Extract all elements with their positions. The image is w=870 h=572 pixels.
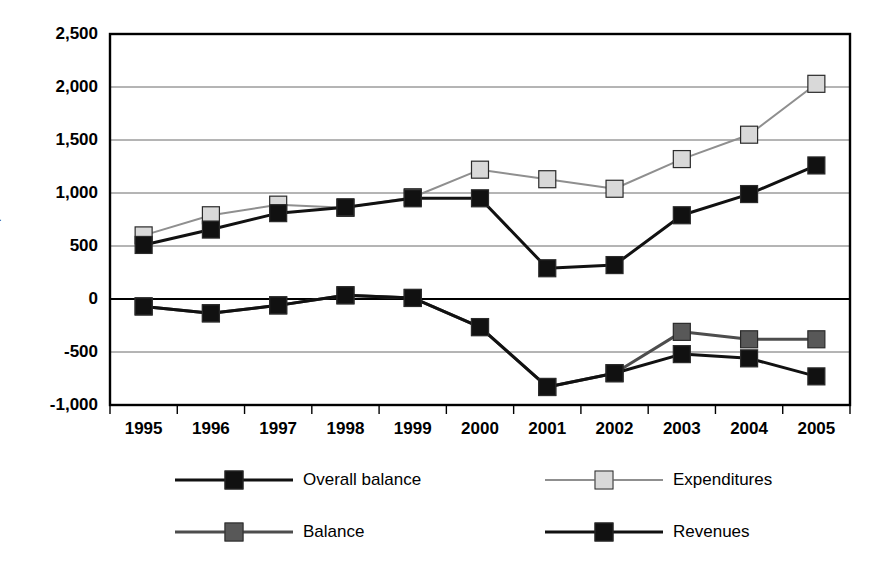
legend-marker [595, 471, 614, 490]
data-point-marker [808, 331, 825, 348]
data-point-marker [472, 319, 489, 336]
series-balance [135, 287, 825, 396]
data-point-marker [135, 236, 152, 253]
data-point-marker [337, 199, 354, 216]
chart-legend: Overall balanceExpendituresBalanceRevenu… [175, 470, 855, 565]
legend-swatch [175, 522, 293, 542]
x-axis-tick-label: 1998 [327, 419, 365, 439]
series-line [144, 295, 817, 387]
x-axis-tick-label: 2003 [663, 419, 701, 439]
legend-swatch [545, 522, 663, 542]
data-point-marker [270, 297, 287, 314]
data-point-marker [741, 350, 758, 367]
x-axis-tick-label: 2001 [528, 419, 566, 439]
data-point-marker [673, 346, 690, 363]
legend-label: Revenues [673, 522, 750, 542]
legend-label: Overall balance [303, 470, 421, 490]
data-point-marker [673, 151, 690, 168]
x-axis-tick-label: 1995 [125, 419, 163, 439]
legend-marker [225, 523, 244, 542]
legend-marker [225, 471, 244, 490]
data-point-marker [808, 368, 825, 385]
x-axis-tick-label: 2004 [730, 419, 768, 439]
data-point-marker [673, 323, 690, 340]
data-point-marker [135, 298, 152, 315]
data-point-marker [741, 186, 758, 203]
x-axis-tick-label: 1997 [259, 419, 297, 439]
data-point-marker [337, 287, 354, 304]
data-point-marker [539, 171, 556, 188]
series-line [144, 84, 817, 236]
legend-marker [595, 523, 614, 542]
plot-frame [110, 34, 850, 405]
x-axis-tick-label: 2000 [461, 419, 499, 439]
legend-item[interactable]: Expenditures [545, 470, 772, 490]
data-point-marker [539, 378, 556, 395]
data-point-marker [202, 221, 219, 238]
data-point-marker [808, 157, 825, 174]
series-overall-balance [135, 287, 825, 396]
data-point-marker [472, 190, 489, 207]
data-point-marker [606, 180, 623, 197]
data-point-marker [404, 289, 421, 306]
legend-item[interactable]: Balance [175, 522, 364, 542]
x-axis-tick-label: 1996 [192, 419, 230, 439]
data-point-marker [741, 331, 758, 348]
data-point-marker [606, 257, 623, 274]
series-line [144, 165, 817, 268]
data-point-marker [404, 190, 421, 207]
data-point-marker [270, 205, 287, 222]
legend-item[interactable]: Overall balance [175, 470, 421, 490]
x-axis-tick-label: 1999 [394, 419, 432, 439]
chart-figure: $ mns 2,5002,0001,5001,0005000-500-1,000… [0, 0, 870, 572]
legend-swatch [175, 470, 293, 490]
series-expenditures [135, 75, 825, 244]
data-point-marker [673, 207, 690, 224]
legend-label: Balance [303, 522, 364, 542]
legend-swatch [545, 470, 663, 490]
legend-label: Expenditures [673, 470, 772, 490]
data-point-marker [741, 126, 758, 143]
x-axis-tick-label: 2005 [797, 419, 835, 439]
x-axis-tick-label: 2002 [596, 419, 634, 439]
data-point-marker [202, 305, 219, 322]
data-point-marker [606, 365, 623, 382]
data-point-marker [472, 161, 489, 178]
data-point-marker [808, 75, 825, 92]
data-point-marker [539, 260, 556, 277]
legend-item[interactable]: Revenues [545, 522, 750, 542]
